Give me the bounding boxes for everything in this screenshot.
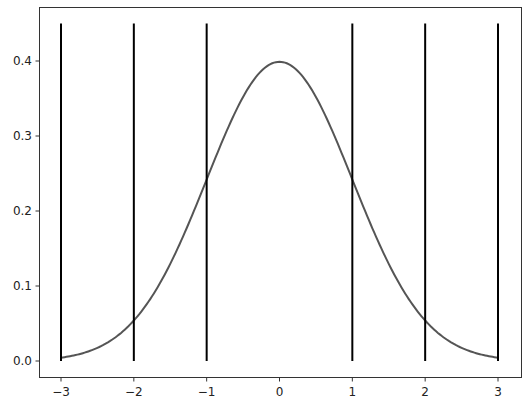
x-tick-label: −3 (52, 385, 70, 399)
normal-distribution-chart: −3−2−10123 0.00.10.20.30.4 (0, 0, 529, 412)
y-tick-label: 0.4 (13, 54, 32, 68)
y-tick-label: 0.3 (13, 129, 32, 143)
vertical-lines (61, 24, 498, 362)
x-tick-label: 2 (421, 385, 429, 399)
x-axis-ticks: −3−2−10123 (52, 378, 502, 400)
x-tick-label: 3 (494, 385, 502, 399)
y-tick-label: 0.2 (13, 204, 32, 218)
y-axis-ticks: 0.00.10.20.30.4 (13, 54, 40, 368)
y-tick-label: 0.0 (13, 354, 32, 368)
x-tick-label: −2 (125, 385, 143, 399)
axes-frame (40, 8, 522, 378)
x-tick-label: 1 (349, 385, 357, 399)
pdf-curve (61, 62, 498, 358)
y-tick-label: 0.1 (13, 279, 32, 293)
x-tick-label: 0 (276, 385, 284, 399)
x-tick-label: −1 (198, 385, 216, 399)
